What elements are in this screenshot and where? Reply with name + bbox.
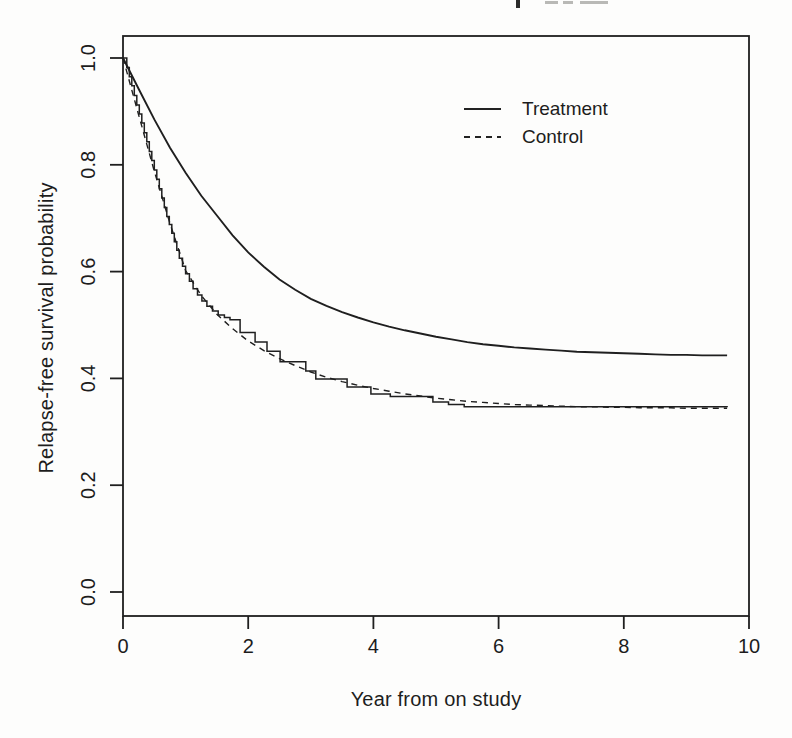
x-tick-label: 10 bbox=[738, 635, 760, 657]
x-tick-label: 4 bbox=[368, 635, 379, 657]
legend: Treatment Control bbox=[464, 97, 608, 148]
y-tick-label: 0.2 bbox=[77, 471, 99, 499]
cropped-title-fragment bbox=[563, 1, 573, 4]
cropped-title-fragment bbox=[545, 1, 558, 4]
solid-line-sample-icon bbox=[464, 108, 501, 110]
y-tick-label: 0.0 bbox=[77, 578, 99, 606]
x-tick-label: 6 bbox=[493, 635, 504, 657]
legend-entry-control: Control bbox=[464, 125, 608, 148]
cropped-title-fragment bbox=[516, 0, 520, 8]
y-tick-label: 1.0 bbox=[77, 44, 99, 72]
x-tick-label: 2 bbox=[243, 635, 254, 657]
cropped-title-fragment bbox=[580, 1, 608, 4]
legend-label: Control bbox=[522, 126, 583, 148]
series-control bbox=[123, 58, 727, 408]
x-tick-label: 8 bbox=[618, 635, 629, 657]
x-tick-label: 0 bbox=[117, 635, 128, 657]
plot-box bbox=[123, 36, 749, 616]
y-axis-title: Relapse-free survival probability bbox=[35, 182, 58, 473]
dashed-line-sample-icon bbox=[464, 136, 501, 138]
survival-chart: 02468100.00.20.40.60.81.0 bbox=[0, 0, 792, 738]
series-observed-step-estimate bbox=[123, 58, 727, 407]
legend-entry-treatment: Treatment bbox=[464, 97, 608, 120]
y-tick-label: 0.8 bbox=[77, 151, 99, 179]
x-axis-title: Year from on study bbox=[123, 688, 749, 711]
y-tick-label: 0.6 bbox=[77, 258, 99, 286]
y-tick-label: 0.4 bbox=[77, 364, 99, 392]
legend-label: Treatment bbox=[522, 98, 608, 120]
survival-plot-figure: 02468100.00.20.40.60.81.0 Year from on s… bbox=[0, 0, 792, 738]
